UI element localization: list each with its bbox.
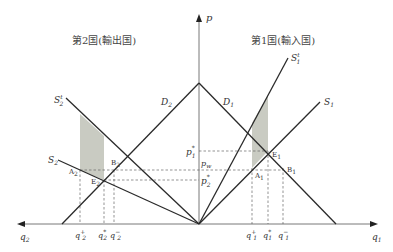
label-q2-star: q*2 xyxy=(98,228,107,241)
label-a2: A2 xyxy=(68,168,78,177)
label-s2-tariff: St2 xyxy=(54,93,64,107)
trade-equilibrium-diagram: 第2国(輸出国) 第1国(輸入国) p q1 q2 D2 D1 S1 St1 S… xyxy=(0,0,393,252)
axis-label-p: p xyxy=(206,12,213,23)
label-b2: B2 xyxy=(111,159,120,168)
label-a1: A1 xyxy=(254,172,264,181)
supply-curve-s1-tariff xyxy=(199,58,288,224)
label-p2-star: p*2 xyxy=(201,173,211,188)
label-p1-star: p*1 xyxy=(186,144,196,159)
label-pw: pw xyxy=(201,159,212,169)
label-q1-minus: q−1 xyxy=(278,228,289,241)
label-e2: E2 xyxy=(91,178,100,187)
label-b1: B1 xyxy=(287,166,296,175)
right-arrow-icon xyxy=(370,221,378,227)
country2-title: 第2国(輸出国) xyxy=(72,34,136,46)
country1-title: 第1国(輸入国) xyxy=(251,34,315,46)
label-q1-plus: q+1 xyxy=(246,228,257,241)
label-q2-minus: q−2 xyxy=(110,228,121,241)
label-q2-plus: q+2 xyxy=(75,228,86,241)
label-d1: D1 xyxy=(222,97,234,108)
axis-label-q1: q1 xyxy=(372,232,382,243)
label-d2: D2 xyxy=(160,97,172,108)
label-e1: E1 xyxy=(272,151,281,160)
left-arrow-icon xyxy=(17,221,25,227)
label-s1-tariff: St1 xyxy=(291,51,300,65)
label-q1-star: q*1 xyxy=(263,228,272,241)
supply-curve-s2 xyxy=(58,160,199,224)
up-arrow-icon xyxy=(196,14,202,22)
label-s1: S1 xyxy=(324,97,334,108)
axis-label-q2: q2 xyxy=(20,232,30,243)
label-s2: S2 xyxy=(48,155,58,166)
